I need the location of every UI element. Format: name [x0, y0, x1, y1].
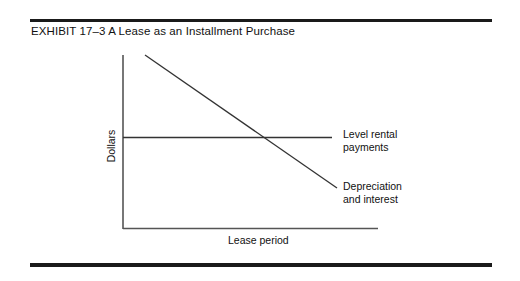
y-axis-label-text: Dollars — [105, 130, 117, 163]
callout-level-rental-payments: Level rental payments — [343, 128, 397, 153]
callout-depreciation-line-2: and interest — [343, 193, 402, 206]
callout-rental-line-1: Level rental — [343, 128, 397, 141]
figure-rule-bottom — [30, 263, 492, 267]
exhibit-figure-page: EXHIBIT 17–3 A Lease as an Installment P… — [0, 0, 520, 281]
callout-depreciation-and-interest: Depreciation and interest — [343, 180, 402, 205]
callout-rental-line-2: payments — [343, 141, 397, 154]
x-axis-label: Lease period — [228, 234, 289, 246]
callout-depreciation-line-1: Depreciation — [343, 180, 402, 193]
y-axis-label: Dollars — [104, 120, 118, 172]
depreciation-and-interest-line — [145, 55, 337, 188]
